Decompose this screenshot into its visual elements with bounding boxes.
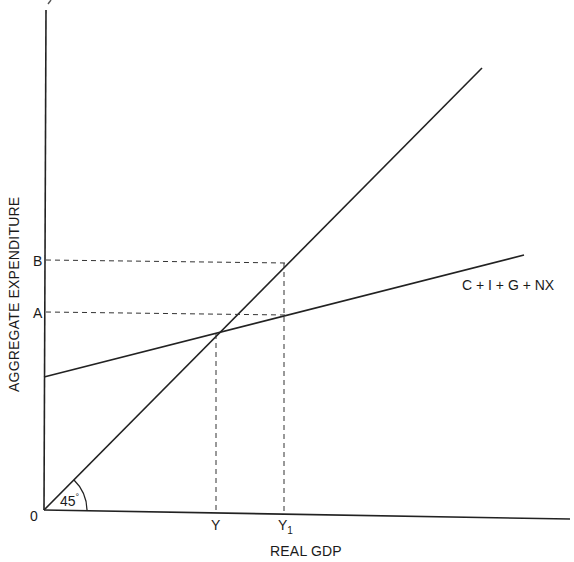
- tick-label-y: Y: [211, 517, 221, 533]
- ae-diagram: 45° 0 B A Y Y1 C + I + G + NX REAL GDP A…: [0, 0, 574, 562]
- tick-label-y1: Y1: [278, 517, 293, 536]
- tick-label-a: A: [33, 305, 43, 321]
- ae-line-label: C + I + G + NX: [462, 277, 555, 293]
- origin-label: 0: [30, 508, 38, 524]
- angle-label: 45°: [60, 492, 80, 509]
- dashed-b-horizontal: [46, 260, 286, 263]
- x-axis-title: REAL GDP: [270, 543, 342, 559]
- x-axis: [44, 510, 570, 519]
- tick-label-b: B: [33, 253, 42, 269]
- y-axis-title: AGGREGATE EXPENDITURE: [6, 197, 22, 392]
- 45-degree-line: [44, 68, 482, 510]
- dashed-a-horizontal: [46, 312, 285, 315]
- y-axis-arrow-mark: [48, 0, 51, 4]
- y-axis: [44, 10, 46, 510]
